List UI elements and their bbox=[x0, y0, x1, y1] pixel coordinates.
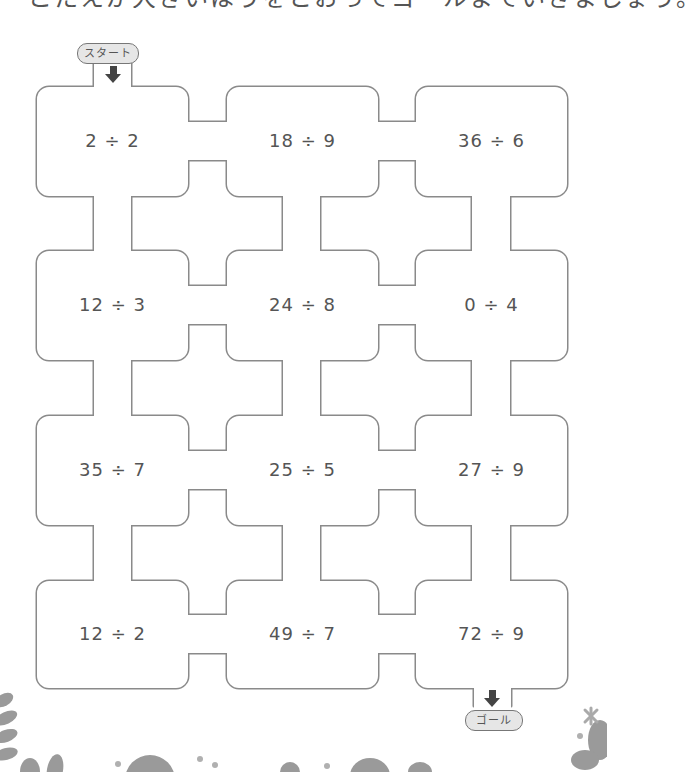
room-r2c2: 24 ÷ 8 bbox=[227, 294, 378, 315]
foliage-decoration bbox=[0, 680, 607, 772]
flower-icon bbox=[585, 708, 597, 724]
room-r4c3: 72 ÷ 9 bbox=[416, 623, 567, 644]
room-r1c3: 36 ÷ 6 bbox=[416, 130, 567, 151]
room-r2c3: 0 ÷ 4 bbox=[416, 294, 567, 315]
room-r1c1: 2 ÷ 2 bbox=[37, 130, 188, 151]
room-r3c1: 35 ÷ 7 bbox=[37, 459, 188, 480]
start-label: スタート bbox=[77, 43, 139, 64]
leaf-icon bbox=[0, 690, 607, 772]
room-r2c1: 12 ÷ 3 bbox=[37, 294, 188, 315]
room-r3c2: 25 ÷ 5 bbox=[227, 459, 378, 480]
room-r4c2: 49 ÷ 7 bbox=[227, 623, 378, 644]
room-r1c2: 18 ÷ 9 bbox=[227, 130, 378, 151]
room-r4c1: 12 ÷ 2 bbox=[37, 623, 188, 644]
room-r3c3: 27 ÷ 9 bbox=[416, 459, 567, 480]
dot-icon bbox=[115, 733, 583, 769]
